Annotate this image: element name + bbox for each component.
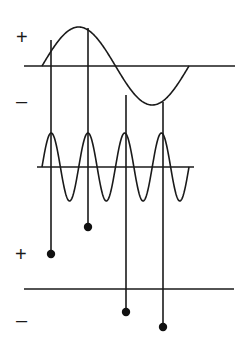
sample-dot-4 [159, 323, 167, 331]
sample-dot-3 [122, 308, 130, 316]
sampling-diagram: + – + – [0, 0, 242, 347]
top-plus-label: + [16, 26, 28, 48]
sample-dot-2 [84, 223, 92, 231]
sample-dot-1 [47, 250, 55, 258]
top-minus-label: – [16, 90, 28, 112]
middle-panel [37, 133, 194, 201]
sample-lines [47, 28, 167, 331]
bottom-plus-label: + [15, 243, 27, 265]
bottom-minus-label: – [16, 309, 28, 331]
